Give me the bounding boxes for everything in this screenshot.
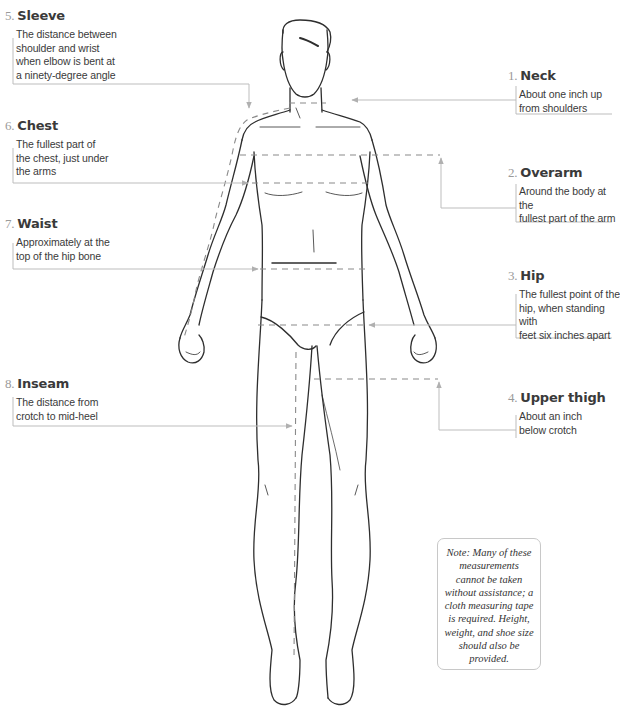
figure-outline (179, 20, 436, 704)
label-number: 8. (5, 376, 14, 391)
label-description: Approximately at the top of the hip bone (5, 236, 110, 263)
label-number: 2. (508, 165, 517, 180)
label-sleeve: 5.Sleeve The distance between shoulder a… (5, 8, 117, 82)
label-description: The fullest point of the hip, when stand… (508, 288, 620, 342)
label-title: Waist (17, 216, 57, 231)
label-title: Overarm (520, 165, 582, 180)
label-number: 3. (508, 268, 517, 283)
label-description: Around the body at the fullest part of t… (508, 185, 620, 226)
label-description: About one inch up from shoulders (508, 88, 602, 115)
label-neck: 1.Neck About one inch up from shoulders (508, 68, 602, 115)
label-number: 6. (5, 118, 14, 133)
label-title: Neck (520, 68, 555, 83)
label-description: The fullest part of the chest, just unde… (5, 138, 108, 179)
label-title: Inseam (17, 376, 69, 391)
sleeve-dash (184, 108, 290, 338)
label-description: The distance from crotch to mid-heel (5, 396, 98, 423)
label-number: 4. (508, 390, 517, 405)
label-title: Sleeve (17, 8, 65, 23)
label-chest: 6.Chest The fullest part of the chest, j… (5, 118, 108, 179)
label-description: The distance between shoulder and wrist … (5, 28, 117, 82)
label-description: About an inch below crotch (508, 410, 606, 437)
measurement-dashes (184, 103, 440, 660)
label-title: Chest (17, 118, 58, 133)
label-overarm: 2.Overarm Around the body at the fullest… (508, 165, 620, 226)
label-number: 5. (5, 8, 14, 23)
note-box: Note: Many of these measurements cannot … (437, 538, 541, 670)
label-number: 7. (5, 216, 14, 231)
label-title: Upper thigh (520, 390, 605, 405)
label-title: Hip (520, 268, 544, 283)
label-waist: 7.Waist Approximately at the top of the … (5, 216, 110, 263)
label-inseam: 8.Inseam The distance from crotch to mid… (5, 376, 98, 423)
label-upper-thigh: 4.Upper thigh About an inch below crotch (508, 390, 606, 437)
label-number: 1. (508, 68, 517, 83)
label-hip: 3.Hip The fullest point of the hip, when… (508, 268, 620, 342)
